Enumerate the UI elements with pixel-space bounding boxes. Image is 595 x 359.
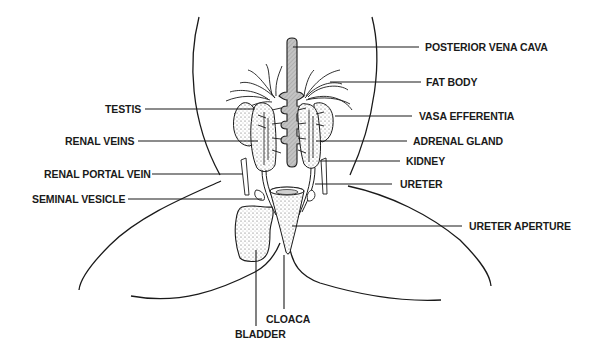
fat-body-right: [304, 70, 352, 110]
bladder: [235, 206, 273, 262]
label-kidney: KIDNEY: [406, 155, 445, 167]
fat-body-left: [226, 64, 282, 114]
label-testis: TESTIS: [105, 103, 141, 115]
label-seminal-vesicle: SEMINAL VESICLE: [32, 193, 125, 205]
label-ureter: URETER: [400, 178, 443, 190]
label-posterior-vena-cava: POSTERIOR VENA CAVA: [425, 41, 548, 53]
label-adrenal-gland: ADRENAL GLAND: [413, 135, 503, 147]
cloaca: [270, 187, 304, 254]
label-renal-veins: RENAL VEINS: [65, 135, 134, 147]
label-fat-body: FAT BODY: [426, 76, 478, 88]
label-ureter-aperture: URETER APERTURE: [469, 220, 571, 232]
label-cloaca: CLOACA: [266, 313, 310, 325]
label-bladder: BLADDER: [235, 328, 286, 340]
label-vasa-efferentia: VASA EFFERENTIA: [419, 110, 514, 122]
right-testis-kidney: [298, 103, 333, 215]
label-renal-portal-vein: RENAL PORTAL VEIN: [44, 168, 151, 180]
